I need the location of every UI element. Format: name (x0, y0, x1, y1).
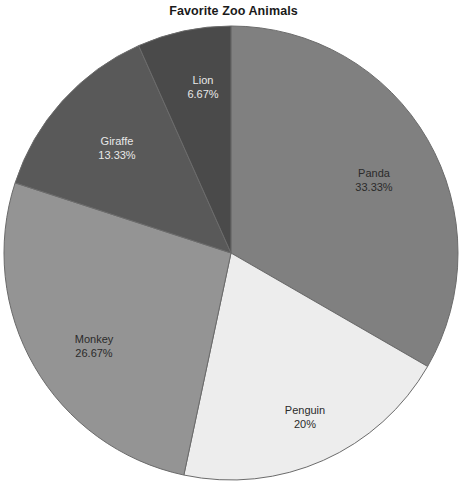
pie-slices-group (4, 26, 458, 480)
slice-label-name-penguin: Penguin (285, 404, 325, 416)
slice-label-percent-lion: 6.67% (187, 88, 218, 100)
pie-chart-canvas: Panda33.33%Penguin20%Monkey26.67%Giraffe… (0, 0, 467, 493)
slice-label-name-monkey: Monkey (75, 333, 114, 345)
slice-label-name-lion: Lion (193, 74, 214, 86)
slice-label-name-panda: Panda (358, 167, 391, 179)
slice-label-percent-penguin: 20% (294, 418, 316, 430)
slice-label-name-giraffe: Giraffe (101, 135, 134, 147)
slice-label-percent-giraffe: 13.33% (98, 149, 136, 161)
pie-chart-figure: Favorite Zoo Animals Panda33.33%Penguin2… (0, 0, 467, 493)
slice-label-percent-panda: 33.33% (355, 181, 393, 193)
slice-label-percent-monkey: 26.67% (75, 347, 113, 359)
